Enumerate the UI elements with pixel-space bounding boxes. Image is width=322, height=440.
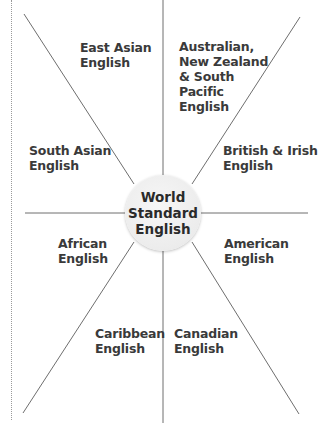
label-british-irish: British & Irish English (223, 143, 318, 173)
label-canadian: Canadian English (174, 326, 238, 356)
label-south-asian: South Asian English (29, 143, 111, 173)
center-label: World Standard English (128, 189, 198, 237)
label-caribbean: Caribbean English (95, 326, 165, 356)
center-hub: World Standard English (125, 175, 201, 251)
world-englishes-diagram: East Asian English Australian, New Zeala… (0, 0, 322, 440)
label-american: American English (224, 236, 289, 266)
label-east-asian: East Asian English (80, 40, 151, 70)
label-australian-nz-pacific: Australian, New Zealand & South Pacific … (179, 39, 268, 114)
label-african: African English (58, 236, 108, 266)
